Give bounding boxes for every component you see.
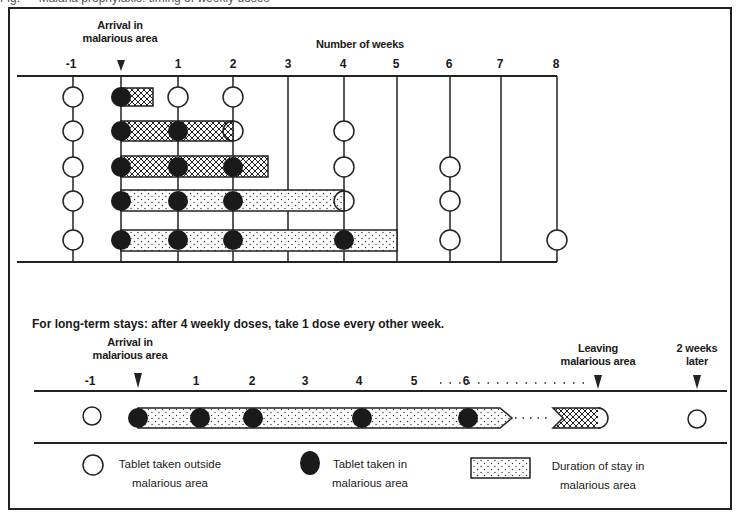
top-arrival-label: Arrival in malarious area [80, 19, 160, 45]
caption-cutoff: Fig. — Malaria prophylaxis: timing of we… [0, 0, 269, 5]
legend-filled-icon [300, 451, 320, 475]
legend-stay-icon [471, 458, 530, 478]
long-term-note: For long-term stays: after 4 weekly dose… [32, 317, 444, 331]
legend-open-icon [83, 455, 103, 475]
legend-filled-text: Tablet taken in malarious area [320, 455, 420, 493]
diagram-canvas [0, 0, 738, 519]
arrival-arrow-icon [117, 60, 125, 71]
axis-title: Number of weeks [300, 38, 420, 51]
stay-bars [121, 88, 397, 251]
leaving-label: Leaving malarious area [548, 342, 648, 368]
arrival-arrow-icon-bottom [134, 373, 142, 388]
legend-stay-text: Duration of stay in malarious area [538, 457, 658, 495]
later-label: 2 weeks later [667, 342, 727, 368]
legend-open-text: Tablet taken outside malarious area [110, 455, 230, 493]
later-arrow-icon [693, 375, 701, 389]
bottom-arrival-label: Arrival in malarious area [80, 336, 180, 362]
leaving-arrow-icon [594, 375, 602, 389]
